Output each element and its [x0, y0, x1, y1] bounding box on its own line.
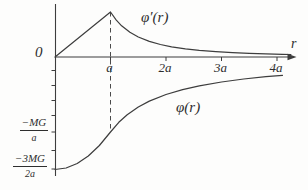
phi-curve-label: φ(r): [176, 99, 200, 116]
curve-phi_prime: [55, 12, 291, 57]
svg-text:2a: 2a: [159, 60, 173, 75]
svg-text:a: a: [106, 60, 113, 75]
y-ticks: [52, 71, 56, 170]
fraction-numerator: −3MG: [13, 153, 47, 167]
y-label-minus-MG-over-a: −MG a: [16, 117, 52, 143]
phi-prime-curve-label: φ′(r): [141, 9, 168, 26]
curve-phi: [55, 75, 283, 169]
y-label-minus-3MG-over-2a: −3MG 2a: [8, 153, 52, 179]
svg-text:3a: 3a: [213, 60, 228, 75]
svg-text:4a: 4a: [270, 60, 284, 75]
x-ticks: [111, 57, 278, 61]
x-tick-labels: a2a3a4a: [106, 60, 283, 75]
fraction-denominator: 2a: [8, 167, 52, 179]
fraction-numerator: −MG: [20, 117, 49, 131]
origin-zero-label: 0: [35, 44, 43, 61]
x-axis-r-label: r: [291, 36, 296, 52]
gravitational-potential-figure: a2a3a4a φ′(r) φ(r) 0 r −MG a −3MG 2a: [0, 0, 308, 190]
fraction-denominator: a: [16, 131, 52, 143]
